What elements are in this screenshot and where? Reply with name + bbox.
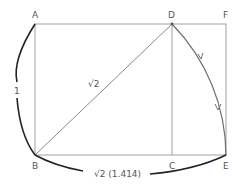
diagonal-bd bbox=[35, 24, 172, 155]
base-bracket-right bbox=[150, 155, 226, 174]
label-d: D bbox=[168, 10, 175, 20]
point-d-dot bbox=[171, 23, 174, 26]
root-two-rectangle bbox=[35, 24, 226, 155]
arc-d-to-e bbox=[172, 24, 226, 155]
label-b: B bbox=[32, 161, 38, 171]
side-length-label: 1 bbox=[14, 86, 20, 96]
base-bracket-left bbox=[35, 155, 83, 171]
base-length-label: √2 (1.414) bbox=[94, 169, 141, 179]
label-c: C bbox=[169, 161, 175, 171]
side-bracket-lower bbox=[17, 98, 35, 155]
side-bracket-upper bbox=[16, 24, 35, 82]
label-a: A bbox=[32, 10, 39, 20]
root-rectangle-diagram: A D F B C E 1 √2 √2 (1.414) bbox=[0, 0, 238, 188]
label-f: F bbox=[223, 10, 228, 20]
diagonal-length-label: √2 bbox=[88, 79, 99, 89]
label-e: E bbox=[223, 161, 229, 171]
